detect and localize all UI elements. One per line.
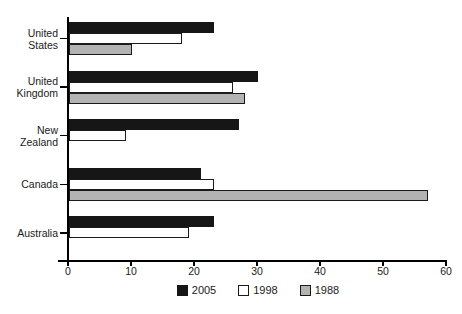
x-tick-label-0: 0 <box>53 265 83 277</box>
bar-2005-australia <box>69 216 214 227</box>
y-tick-united-states <box>60 38 67 40</box>
legend-swatch-2005 <box>177 285 188 296</box>
bar-2005-united-states <box>69 22 214 33</box>
y-tick-united-kingdom <box>60 86 67 88</box>
legend: 200519981988 <box>69 284 447 296</box>
legend-item-1998: 1998 <box>238 284 277 296</box>
category-label-united-kingdom: United Kingdom <box>0 75 58 100</box>
x-tick-label-20: 20 <box>179 265 209 277</box>
y-tick-new-zealand <box>60 135 67 137</box>
bar-1988-canada <box>69 190 428 201</box>
category-label-canada: Canada <box>0 178 58 190</box>
legend-item-2005: 2005 <box>177 284 216 296</box>
bar-chart-figure: 200519981988 United StatesUnited Kingdom… <box>0 0 462 314</box>
bar-1998-united-kingdom <box>69 82 233 93</box>
plot-area <box>69 18 447 261</box>
category-label-australia: Australia <box>0 227 58 239</box>
bar-1998-united-states <box>69 33 182 44</box>
bar-2005-united-kingdom <box>69 71 258 82</box>
x-tick-label-60: 60 <box>431 265 461 277</box>
legend-label-1998: 1998 <box>253 284 277 296</box>
bar-1998-canada <box>69 179 214 190</box>
legend-swatch-1998 <box>238 285 249 296</box>
bar-1998-new-zealand <box>69 130 126 141</box>
category-label-new-zealand: New Zealand <box>0 123 58 148</box>
legend-swatch-1988 <box>300 285 311 296</box>
legend-label-2005: 2005 <box>192 284 216 296</box>
bar-2005-canada <box>69 168 201 179</box>
legend-label-1988: 1988 <box>315 284 339 296</box>
category-label-united-states: United States <box>0 26 58 51</box>
bar-1988-united-states <box>69 44 132 55</box>
legend-item-1988: 1988 <box>300 284 339 296</box>
bar-2005-new-zealand <box>69 119 239 130</box>
bar-1998-australia <box>69 227 189 238</box>
bar-1988-united-kingdom <box>69 93 245 104</box>
x-tick-label-50: 50 <box>368 265 398 277</box>
x-tick-label-40: 40 <box>305 265 335 277</box>
y-tick-australia <box>60 232 67 234</box>
x-tick-label-10: 10 <box>116 265 146 277</box>
x-tick-label-30: 30 <box>242 265 272 277</box>
y-tick-canada <box>60 184 67 186</box>
